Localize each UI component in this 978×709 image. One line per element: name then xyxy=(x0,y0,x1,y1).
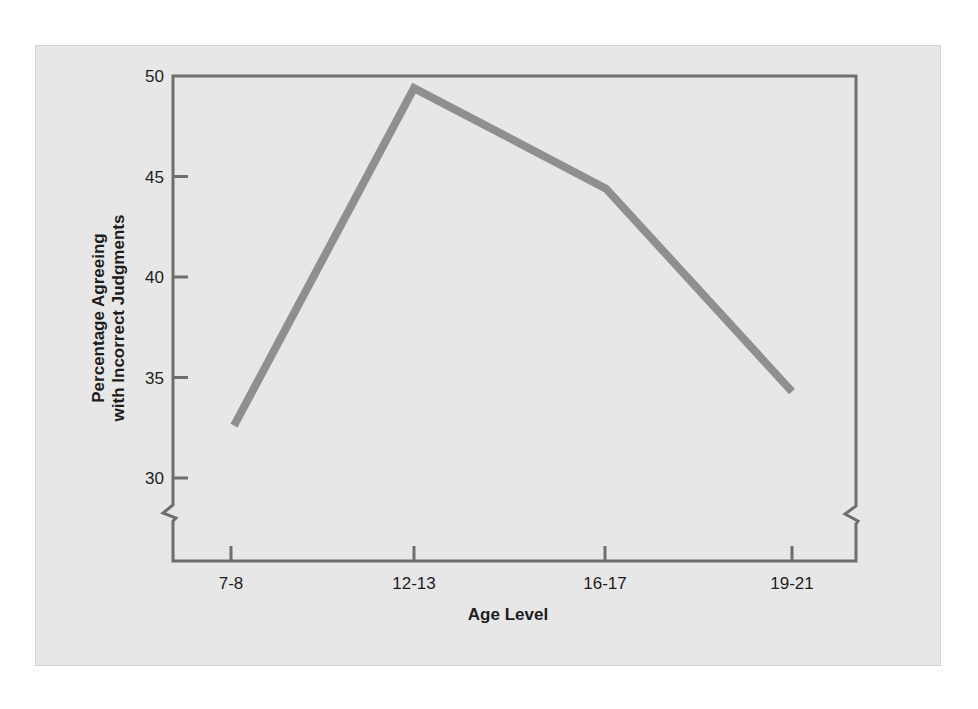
x-tick-label: 19-21 xyxy=(770,574,813,593)
x-tick-label: 7-8 xyxy=(219,574,244,593)
y-axis-title-line-2: with Incorrect Judgments xyxy=(109,215,128,423)
x-tick-label: 16-17 xyxy=(583,574,626,593)
y-tick-label: 35 xyxy=(145,369,164,388)
y-axis-ticks: 3035404550 xyxy=(145,67,188,488)
plot-frame xyxy=(163,76,858,561)
axes-frame xyxy=(163,76,858,561)
y-tick-label: 45 xyxy=(145,168,164,187)
data-line xyxy=(234,88,792,426)
y-tick-label: 30 xyxy=(145,469,164,488)
y-axis-title-line-1: Percentage Agreeing xyxy=(89,233,108,402)
y-tick-label: 50 xyxy=(145,67,164,86)
y-tick-label: 40 xyxy=(145,268,164,287)
x-axis-title: Age Level xyxy=(468,605,548,624)
x-tick-label: 12-13 xyxy=(392,574,435,593)
line-chart: 3035404550 7-812-1316-1719-21 Age Level … xyxy=(0,0,978,709)
y-axis-title: Percentage Agreeing with Incorrect Judgm… xyxy=(89,215,128,423)
x-axis-ticks: 7-812-1316-1719-21 xyxy=(219,546,814,593)
